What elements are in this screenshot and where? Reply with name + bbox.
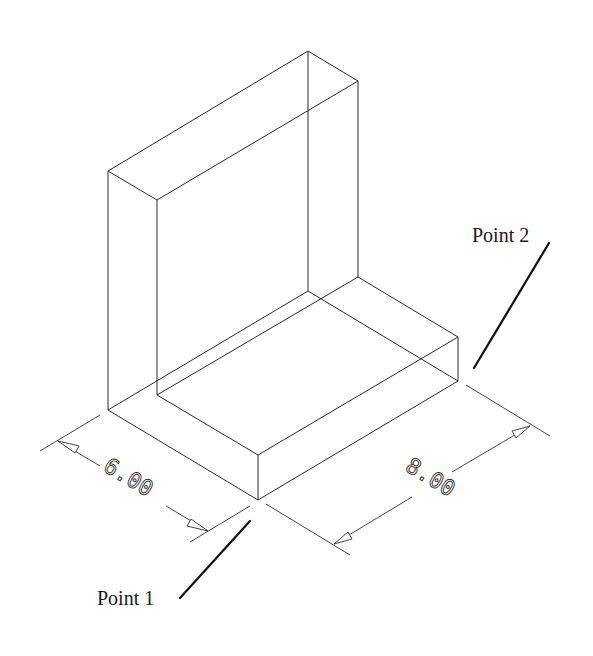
edge — [358, 277, 458, 337]
edge — [308, 51, 358, 81]
dimension-width: 6.00 — [40, 415, 250, 542]
edge — [108, 51, 308, 171]
arrowhead-icon — [512, 426, 530, 438]
l-bracket-diagram: 6.00 8.00 Point 2 Point 1 — [0, 0, 593, 656]
edge — [108, 171, 157, 200]
point1-label: Point 1 — [97, 587, 154, 609]
arrowhead-icon — [334, 532, 352, 544]
dimension-text-length: 8.00 — [401, 453, 459, 502]
arrowhead-icon — [187, 519, 208, 531]
edge — [308, 291, 458, 381]
point1-leader — [180, 521, 250, 598]
wireframe-edges — [108, 51, 458, 500]
extension-line — [266, 504, 350, 555]
extension-line — [466, 385, 550, 436]
edge — [108, 291, 308, 410]
point2-label: Point 2 — [472, 224, 529, 246]
extension-line — [190, 506, 250, 542]
dimension-text-width: 6.00 — [99, 453, 157, 502]
edge — [258, 337, 458, 455]
edge — [157, 395, 258, 455]
arrowhead-icon — [58, 441, 79, 453]
point2-leader — [474, 243, 549, 368]
edge — [157, 81, 358, 200]
edge — [157, 277, 358, 395]
